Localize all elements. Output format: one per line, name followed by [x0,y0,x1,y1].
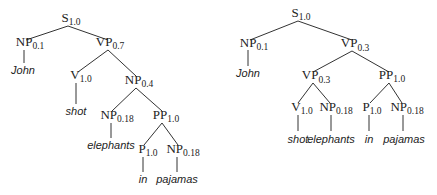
word-shot: shot [66,105,88,117]
node-p: P1.0 [138,141,157,158]
node-pp: PP1.0 [379,67,406,84]
word-pajamas: pajamas [382,133,425,145]
node-s: S1.0 [291,5,310,22]
node-np-pajamas: NP0.18 [166,141,200,158]
word-elephants: elephants [87,139,135,151]
word-elephants: elephants [307,133,355,145]
word-john: John [235,67,260,79]
node-vp-top: VP0.3 [341,35,370,53]
node-s: S1.0 [61,10,80,27]
word-in: in [365,133,374,145]
right-tree: S1.0 NP0.1 VP0.3 VP0.3 PP1.0 V1.0 NP0.18… [235,5,425,145]
node-np-pajamas: NP0.18 [390,99,424,116]
node-vp-inner: VP0.3 [302,67,331,85]
word-pajamas: pajamas [155,173,198,185]
node-v: V1.0 [291,99,313,116]
node-vp: VP0.7 [96,34,125,51]
node-np-subject: NP0.1 [16,34,45,51]
node-np-elephants: NP0.18 [319,99,353,116]
node-pp: PP1.0 [153,107,180,124]
node-np-elephants: NP0.18 [100,107,134,124]
word-john: John [10,64,35,76]
word-in: in [139,173,148,185]
parse-trees-figure: S1.0 NP0.1 VP0.7 V1.0 NP0.4 NP0.18 PP1.0… [0,0,437,195]
node-np-subject: NP0.1 [240,35,269,52]
word-shot: shot [288,133,310,145]
node-p: P1.0 [362,99,381,116]
node-np-object: NP0.4 [125,72,154,89]
